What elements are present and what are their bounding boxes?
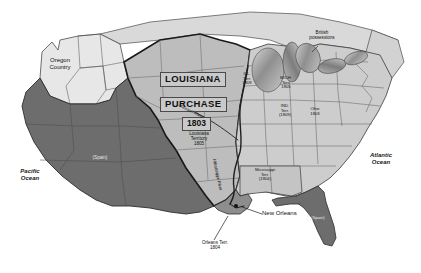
map-graphic bbox=[0, 0, 421, 273]
louisiana-purchase-map: Oregon Country LOUISIANA PURCHASE 1803 L… bbox=[0, 0, 421, 273]
region-mississippi-territory bbox=[240, 166, 302, 196]
new-orleans-marker bbox=[234, 204, 238, 208]
